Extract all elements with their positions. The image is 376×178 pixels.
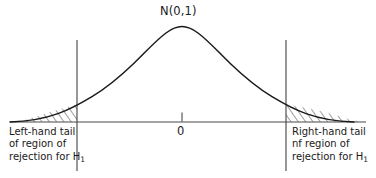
- right-tail-hypothesis-subscript: 1: [363, 155, 368, 164]
- left-tail-caption-line-2: of region of: [9, 138, 85, 150]
- right-tail-hypothesis-text: rejection for H: [292, 151, 363, 162]
- left-tail-hypothesis-text: rejection for H: [9, 151, 80, 162]
- curve-label: N(0,1): [160, 4, 196, 18]
- right-tail-caption-line-1: Right-hand tail: [292, 126, 368, 138]
- right-tail-caption-line-2: nf region of: [292, 138, 368, 150]
- left-tail-caption-line-3: rejection for H1: [9, 151, 85, 166]
- left-tail-hypothesis-subscript: 1: [80, 155, 85, 164]
- normal-distribution-figure: N(0,1) 0 Left-hand tail of region of rej…: [0, 0, 376, 178]
- right-tail-shaded-region: [282, 94, 372, 128]
- origin-label: 0: [177, 124, 184, 138]
- left-tail-shaded-region: [4, 94, 88, 128]
- left-tail-caption-line-1: Left-hand tail: [9, 126, 85, 138]
- right-tail-caption: Right-hand tail nf region of rejection f…: [292, 126, 368, 166]
- right-tail-caption-line-3: rejection for H1: [292, 151, 368, 166]
- left-tail-caption: Left-hand tail of region of rejection fo…: [9, 126, 85, 166]
